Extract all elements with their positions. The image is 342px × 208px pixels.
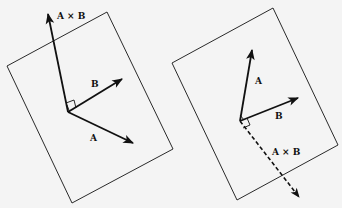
label-a-left: A [89,133,98,143]
label-axb-left: A × B [56,11,86,21]
vector-axb-left [48,14,68,112]
vector-axb-right [240,121,299,197]
plane-left [7,12,173,203]
right-figure: A B A × B [172,8,338,200]
label-a-right: A [254,76,263,86]
left-figure: A × B B A [7,11,173,203]
vector-a-right [240,50,252,121]
vector-b-right [240,98,298,121]
label-b-right: B [275,111,283,121]
vector-a-left [68,112,133,143]
plane-right [172,8,338,200]
label-axb-right: A × B [271,147,301,157]
label-b-left: B [91,79,99,89]
cross-product-diagram: A × B B A A B A × B [0,0,342,208]
